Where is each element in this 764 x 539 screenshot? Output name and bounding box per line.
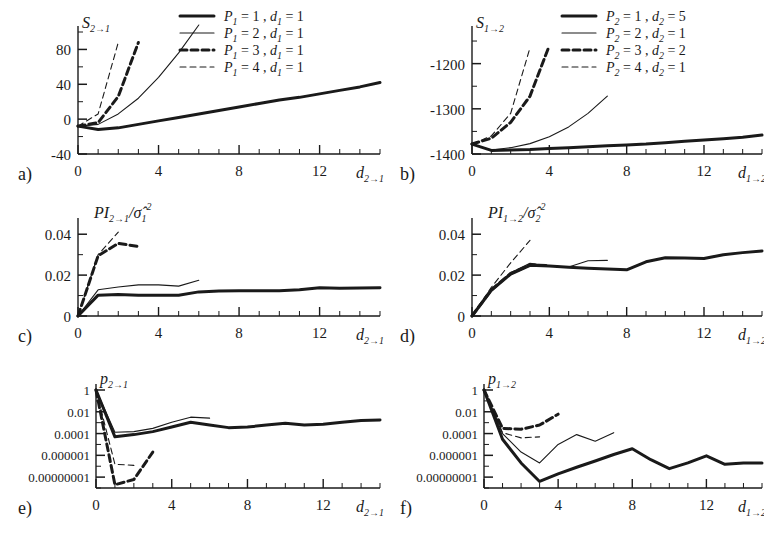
x-tick-label: 0: [468, 325, 476, 341]
series-line: [96, 390, 210, 432]
series-line: [472, 265, 549, 316]
x-tick-label: 4: [155, 325, 163, 341]
panel-id: f): [400, 498, 412, 519]
panel-id: a): [18, 164, 32, 185]
y-tick-label: 0.02: [439, 268, 465, 284]
panel-b: 04812-1200-1300-1400S1→2d1→2b)P2 = 1 , d…: [394, 2, 764, 192]
legend: P1 = 1 , d1 = 1P1 = 2 , d1 = 1P1 = 3 , d…: [180, 9, 304, 78]
panel-id: e): [18, 498, 32, 519]
panel-id: b): [400, 164, 415, 185]
x-tick-label: 4: [546, 163, 554, 179]
y-tick-label: 0.0001: [54, 427, 90, 442]
x-tick-label: 8: [235, 163, 243, 179]
y-axis-title: PI2→1/σ̂12: [93, 201, 151, 224]
x-tick-label: 8: [244, 497, 252, 513]
axes: [472, 218, 762, 316]
series-line: [484, 390, 762, 481]
x-tick-label: 0: [468, 163, 476, 179]
x-tick-label: 8: [235, 325, 243, 341]
y-tick-label: 0.000001: [41, 448, 90, 463]
series-line: [472, 251, 762, 316]
y-tick-label: 80: [56, 42, 71, 58]
panel-e: 0481210.010.00010.0000010.00000001p2→1d2…: [12, 368, 382, 538]
y-ticks: [472, 41, 481, 154]
x-tick-label: 4: [546, 325, 554, 341]
y-tick-label: 0: [458, 309, 466, 325]
curves: [484, 390, 762, 481]
x-tick-label: 0: [92, 497, 100, 513]
y-axis-title: PI1→2/σ̂22: [487, 201, 545, 224]
x-tick-label: 4: [155, 163, 163, 179]
series-line: [472, 135, 762, 150]
axes: [484, 384, 762, 488]
series-line: [78, 83, 380, 130]
y-tick-label: -1400: [430, 147, 465, 163]
y-tick-label: 0.02: [45, 268, 71, 284]
panel-id: d): [400, 326, 415, 347]
y-axis-title: p2→1: [99, 370, 128, 390]
series-line: [96, 390, 153, 485]
x-axis-title: d1→2: [738, 498, 764, 518]
y-tick-label: 0: [64, 112, 72, 128]
x-tick-label: 8: [623, 325, 631, 341]
x-tick-label: 0: [74, 163, 82, 179]
curves: [78, 232, 380, 316]
y-axis-title: S1→2: [476, 14, 504, 34]
y-tick-label: -40: [51, 147, 71, 163]
legend-label-4: P1 = 4 , d1 = 1: [223, 60, 304, 78]
y-tick-label: 1: [472, 383, 479, 398]
y-tick-label: 0.00000001: [28, 470, 90, 485]
panel-f: 0481210.010.00010.0000010.00000001p1→2d1…: [394, 368, 764, 538]
x-axis-title: d2→1: [356, 326, 384, 346]
figure-root: 0481280400-40S2→1d2→1a)P1 = 1 , d1 = 1P1…: [0, 0, 764, 539]
x-axis-title: d1→2: [738, 164, 764, 184]
y-tick-label: 0.000001: [429, 448, 478, 463]
x-axis-title: d1→2: [738, 326, 764, 346]
x-tick-label: 12: [312, 163, 327, 179]
series-line: [78, 42, 138, 126]
panel-c: 048120.040.020PI2→1/σ̂12d2→1c): [12, 196, 382, 356]
series-line: [78, 232, 118, 316]
series-line: [78, 25, 199, 126]
y-tick-label: 0.04: [45, 227, 72, 243]
x-tick-label: 0: [480, 497, 488, 513]
y-ticks: [78, 32, 87, 154]
panel-id: c): [18, 326, 32, 347]
x-tick-label: 12: [316, 497, 331, 513]
y-axis-title: p1→2: [487, 370, 516, 390]
axes: [78, 218, 380, 316]
legend: P2 = 1 , d2 = 5P2 = 2 , d2 = 1P2 = 3 , d…: [562, 9, 686, 78]
series-line: [472, 46, 549, 145]
x-tick-label: 0: [74, 325, 82, 341]
curves: [472, 46, 762, 151]
x-tick-label: 12: [697, 325, 712, 341]
y-tick-label: -1200: [430, 57, 465, 73]
y-tick-label: -1300: [430, 102, 465, 118]
y-tick-label: 0.01: [67, 405, 90, 420]
y-tick-label: 0.00000001: [416, 470, 478, 485]
legend-label-3: P1 = 3 , d1 = 1: [223, 43, 304, 61]
x-tick-label: 12: [699, 497, 714, 513]
y-tick-label: 0.01: [455, 405, 478, 420]
series-line: [472, 96, 607, 150]
series-line: [484, 390, 614, 463]
x-tick-label: 8: [629, 497, 637, 513]
x-tick-label: 8: [623, 163, 631, 179]
y-tick-label: 0: [64, 309, 72, 325]
axes: [472, 26, 762, 154]
series-line: [78, 288, 380, 316]
curves: [472, 240, 762, 316]
legend-label-3: P2 = 3 , d2 = 2: [605, 43, 686, 61]
y-tick-label: 1: [84, 383, 91, 398]
y-tick-label: 40: [56, 77, 71, 93]
panel-a: 0481280400-40S2→1d2→1a)P1 = 1 , d1 = 1P1…: [12, 2, 382, 192]
legend-label-1: P2 = 1 , d2 = 5: [605, 9, 686, 27]
y-tick-label: 0.0001: [442, 427, 478, 442]
x-tick-label: 4: [554, 497, 562, 513]
x-axis-title: d2→1: [356, 164, 384, 184]
y-tick-label: 0.04: [439, 227, 466, 243]
legend-label-2: P1 = 2 , d1 = 1: [223, 26, 304, 44]
x-tick-label: 4: [168, 497, 176, 513]
series-line: [96, 390, 380, 437]
x-tick-label: 12: [697, 163, 712, 179]
